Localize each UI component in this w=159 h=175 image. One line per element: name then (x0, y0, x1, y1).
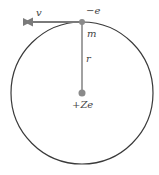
nucleus-charge-label: +Ze (72, 99, 93, 110)
radius-label: r (86, 53, 92, 64)
mass-label: m (87, 28, 96, 39)
velocity-label: v (36, 7, 42, 18)
bohr-atom-diagram: v −e m r +Ze (0, 0, 159, 175)
electron-charge-label: −e (86, 5, 100, 16)
nucleus-dot (79, 90, 86, 97)
electron-dot (79, 19, 85, 25)
velocity-arrowhead-icon (24, 18, 33, 27)
